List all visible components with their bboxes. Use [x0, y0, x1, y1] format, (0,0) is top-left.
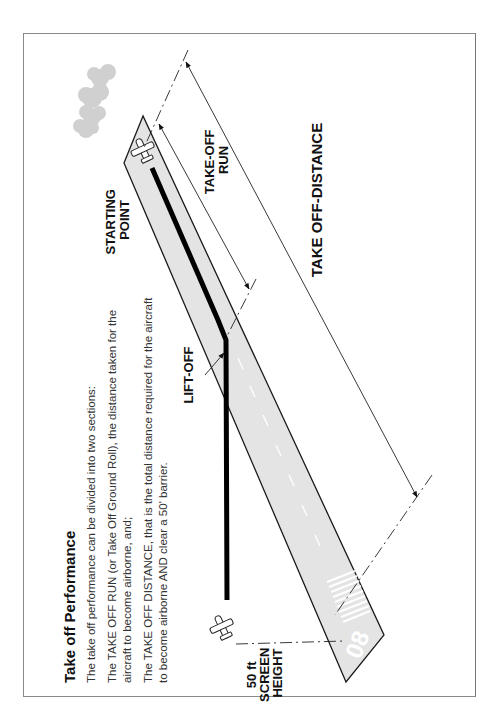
takeoff-diagram: 08 STARTING POINT TAKE-OFF RUN TAKE OFF-… — [0, 0, 496, 720]
take-off-distance-label: TAKE OFF-DISTANCE — [308, 123, 325, 277]
trees-icon — [73, 64, 116, 138]
paragraph-intro: The take off performance can be divided … — [85, 386, 97, 683]
take-off-run-label: TAKE-OFF RUN — [202, 126, 231, 194]
starting-point-label: STARTING POINT — [103, 185, 132, 254]
paragraph-distance-line2: to become airborne AND clear a 50' barri… — [157, 462, 169, 683]
section-title: Take off Performance — [61, 531, 78, 683]
paragraph-run-line2: aircraft to become airborne, and; — [121, 517, 133, 683]
screen-height-label: 50 ft SCREEN HEIGHT — [244, 644, 285, 702]
paragraph-run-line1: The TAKE OFF RUN (or Take Off Ground Rol… — [106, 310, 118, 683]
paragraph-distance-line1: The TAKE OFF DISTANCE, that is the total… — [142, 297, 154, 683]
explanation-text: Take off Performance The take off perfor… — [61, 297, 169, 683]
take-off-distance-arrow — [186, 62, 417, 497]
airplane-airborne-icon — [206, 611, 238, 643]
lift-off-label: LIFT-OFF — [181, 346, 196, 403]
